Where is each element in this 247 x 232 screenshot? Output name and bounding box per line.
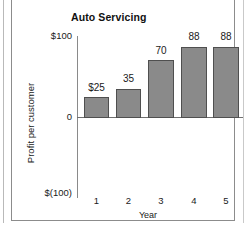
x-axis-title: Year <box>65 210 231 220</box>
bar-value-label-year-2: 35 <box>111 73 146 84</box>
bar-value-label-year-1: $25 <box>79 82 114 93</box>
bar-year-2 <box>116 89 141 118</box>
y-tick-label-neg100: $(100) <box>12 188 72 198</box>
y-axis-title: Profit per customer <box>26 68 36 178</box>
chart-figure: Auto Servicing $100 0 $(100) Profit per … <box>0 0 247 232</box>
x-tick-label-3: 3 <box>143 196 179 206</box>
bar-value-label-year-3: 70 <box>143 45 179 56</box>
bar-year-4 <box>181 47 207 118</box>
bar-value-label-year-5: 88 <box>208 31 244 42</box>
y-tick-label-0: 0 <box>12 112 72 122</box>
x-tick-label-1: 1 <box>79 196 114 206</box>
bar-year-5 <box>213 47 239 118</box>
chart-frame: Auto Servicing $100 0 $(100) Profit per … <box>11 0 235 221</box>
page-edge-rule-left <box>3 0 4 223</box>
y-tick-label-100: $100 <box>12 31 72 41</box>
bar-year-3 <box>148 60 174 118</box>
bar-value-label-year-4: 88 <box>176 31 212 42</box>
x-tick-label-5: 5 <box>208 196 244 206</box>
bar-year-1 <box>84 97 109 118</box>
x-tick-label-4: 4 <box>176 196 212 206</box>
x-tick-label-2: 2 <box>111 196 146 206</box>
